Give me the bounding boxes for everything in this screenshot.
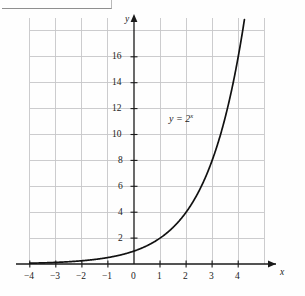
y-tick-label-14: 14 [112, 78, 122, 88]
grid-vertical [30, 18, 264, 264]
x-tick-label-minus3: −3 [50, 272, 60, 282]
x-tick-label-3: 3 [209, 272, 214, 282]
graph-plot-area [0, 0, 305, 296]
y-tick-label-4: 4 [118, 208, 123, 218]
y-tick-label-8: 8 [118, 156, 123, 166]
x-tick-label-minus2: −2 [76, 272, 86, 282]
curve-equation-exponent: x [190, 112, 193, 119]
y-tick-label-12: 12 [112, 104, 122, 114]
y-axis-label: y [125, 15, 129, 25]
curve-equation-base: y = 2 [169, 113, 190, 124]
y-tick-label-10: 10 [112, 130, 122, 140]
x-axis-label: x [280, 268, 284, 278]
y-tick-label-6: 6 [118, 182, 123, 192]
y-axis [131, 14, 138, 264]
y-tick-label-16: 16 [112, 52, 122, 62]
x-tick-label-1: 1 [157, 272, 162, 282]
grid-lines [30, 18, 264, 264]
x-tick-label-2: 2 [183, 272, 188, 282]
x-tick-label-4: 4 [235, 272, 240, 282]
x-tick-label-minus4: −4 [24, 272, 34, 282]
x-tick-label-0: 0 [131, 272, 136, 282]
x-tick-label-minus1: −1 [102, 272, 112, 282]
grid-horizontal [30, 31, 264, 238]
curve-equation-label: y = 2x [169, 113, 193, 124]
exponential-graph-figure: 2 4 6 8 10 12 14 16 −4 −3 −2 −1 0 1 2 3 … [0, 0, 305, 296]
y-tick-label-2: 2 [118, 234, 123, 244]
